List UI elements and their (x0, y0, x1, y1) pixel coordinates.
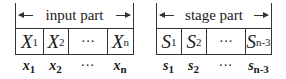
cell-ellipsis-text: ··· (81, 34, 95, 50)
cell-x1: X1 (16, 29, 44, 54)
cell-ellipsis: ··· (207, 29, 246, 54)
value-ellipsis-text: ··· (81, 58, 95, 73)
value-ellipsis: ··· (206, 58, 245, 74)
cell-sub: 1 (33, 36, 39, 48)
cell-base: X (47, 31, 59, 53)
cell-sub: n-3 (256, 36, 271, 48)
stage-part-cells: S1 S2 ··· Sn-3 (157, 28, 271, 55)
stage-part-frame: stage part S1 S2 ··· Sn-3 (156, 3, 272, 55)
stage-part-header: stage part (157, 3, 271, 28)
cell-sub: 2 (59, 36, 65, 48)
value-s1: s1 (156, 58, 181, 75)
arrow-right-icon (116, 15, 130, 16)
cell-base: X (112, 31, 124, 53)
cell-sub: 2 (196, 36, 202, 48)
cell-ellipsis-text: ··· (219, 34, 233, 50)
value-x1: x1 (15, 58, 43, 75)
cell-ellipsis: ··· (69, 29, 108, 54)
value-base: x (23, 58, 30, 73)
cell-base: S (162, 31, 172, 53)
input-part-frame: input part X1 X2 ··· Xn (15, 3, 134, 55)
value-x2: x2 (43, 58, 68, 75)
cell-sub: n (124, 36, 130, 48)
value-sub: n-3 (254, 63, 269, 75)
value-sub: 2 (193, 63, 199, 75)
input-part-cells: X1 X2 ··· Xn (16, 28, 133, 55)
cell-s2: S2 (182, 29, 207, 54)
cell-x2: X2 (44, 29, 69, 54)
cell-base: S (187, 31, 197, 53)
value-xn: xn (107, 58, 133, 75)
value-sub: 1 (30, 63, 36, 75)
value-s2: s2 (181, 58, 206, 75)
cell-base: X (21, 31, 33, 53)
value-sn3: sn-3 (245, 58, 272, 75)
input-part-header: input part (16, 3, 133, 28)
arrow-right-icon (254, 15, 268, 16)
cell-xn: Xn (108, 29, 133, 54)
value-ellipsis-text: ··· (219, 58, 233, 73)
value-sub: 1 (168, 63, 174, 75)
cell-s1: S1 (157, 29, 182, 54)
cell-sn3: Sn-3 (246, 29, 271, 54)
value-ellipsis: ··· (68, 58, 107, 74)
value-sub: n (120, 63, 126, 75)
cell-base: S (246, 31, 256, 53)
value-sub: 2 (56, 63, 62, 75)
cell-sub: 1 (171, 36, 177, 48)
